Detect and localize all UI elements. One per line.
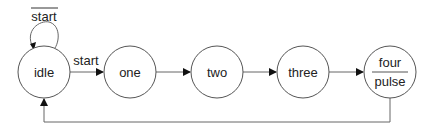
transition-label-not-start: start <box>31 9 57 24</box>
state-label-idle: idle <box>34 65 54 80</box>
state-three: three <box>277 46 329 98</box>
state-label-two: two <box>207 65 227 80</box>
state-one: one <box>104 46 156 98</box>
state-two: two <box>191 46 243 98</box>
transition-label-start: start <box>73 53 99 68</box>
transition-idle-to-one: start <box>70 53 103 72</box>
state-label-one: one <box>119 65 141 80</box>
state-label-four: four <box>379 55 402 70</box>
transition-idle-self-loop: start <box>30 8 58 50</box>
state-four: four pulse <box>364 46 416 98</box>
state-output-pulse: pulse <box>374 74 405 89</box>
state-diagram: start start idle one two three four puls… <box>0 0 435 130</box>
state-label-three: three <box>288 65 318 80</box>
transition-four-to-idle <box>44 98 390 122</box>
state-idle: idle <box>18 46 70 98</box>
